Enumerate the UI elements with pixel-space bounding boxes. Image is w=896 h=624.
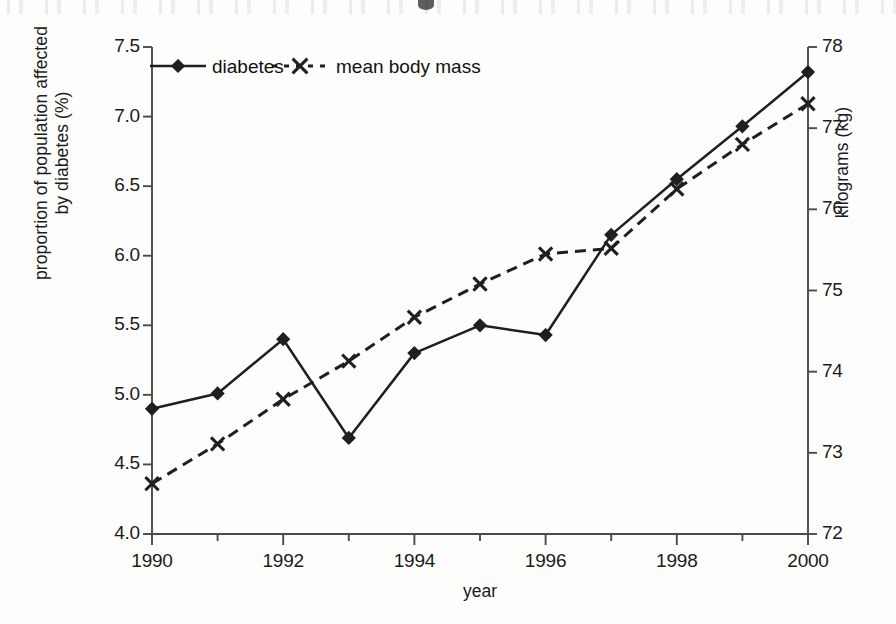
series-line-diabetes: [152, 72, 808, 438]
legend-item-diabetes-marker-diamond-icon: [172, 60, 184, 72]
series-marker-mean-body-mass: [539, 247, 552, 260]
legend-item-mean-body-mass-label: mean body mass: [336, 56, 481, 77]
series-line-mean-body-mass: [152, 104, 808, 484]
y-tick-label-right: 78: [822, 35, 872, 57]
series-marker-mean-body-mass: [277, 393, 290, 406]
y-tick-label-right: 75: [822, 279, 872, 301]
y-tick-label-left: 4.0: [60, 522, 140, 544]
series-marker-diabetes: [539, 329, 551, 341]
series-marker-mean-body-mass: [473, 277, 486, 290]
y-tick-label-left: 5.5: [60, 313, 140, 335]
series-marker-mean-body-mass: [342, 355, 355, 368]
y-tick-label-left: 4.5: [60, 452, 140, 474]
y-tick-label-right: 77: [822, 116, 872, 138]
y-tick-label-right: 73: [822, 441, 872, 463]
x-tick-label: 1998: [637, 550, 717, 572]
y-tick-label-right: 74: [822, 360, 872, 382]
series-marker-mean-body-mass: [408, 311, 421, 324]
y-tick-label-left: 5.0: [60, 383, 140, 405]
series-marker-diabetes: [474, 319, 486, 331]
legend-item-mean-body-mass-marker-x-icon: [293, 59, 308, 74]
x-tick-label: 1990: [112, 550, 192, 572]
y-tick-label-left: 6.5: [60, 174, 140, 196]
legend-item-diabetes-label: diabetes: [212, 56, 284, 77]
chart-figure: proportion of population affected by dia…: [0, 0, 896, 624]
y-tick-label-left: 6.0: [60, 244, 140, 266]
series-marker-diabetes: [146, 403, 158, 415]
y-tick-label-left: 7.0: [60, 105, 140, 127]
y-tick-label-right: 76: [822, 197, 872, 219]
y-tick-label-right: 72: [822, 522, 872, 544]
x-tick-label: 1996: [506, 550, 586, 572]
x-tick-label: 1994: [374, 550, 454, 572]
series-marker-mean-body-mass: [736, 138, 749, 151]
series-marker-mean-body-mass: [211, 437, 224, 450]
y-tick-label-left: 7.5: [60, 35, 140, 57]
x-tick-label: 2000: [768, 550, 848, 572]
x-tick-label: 1992: [243, 550, 323, 572]
